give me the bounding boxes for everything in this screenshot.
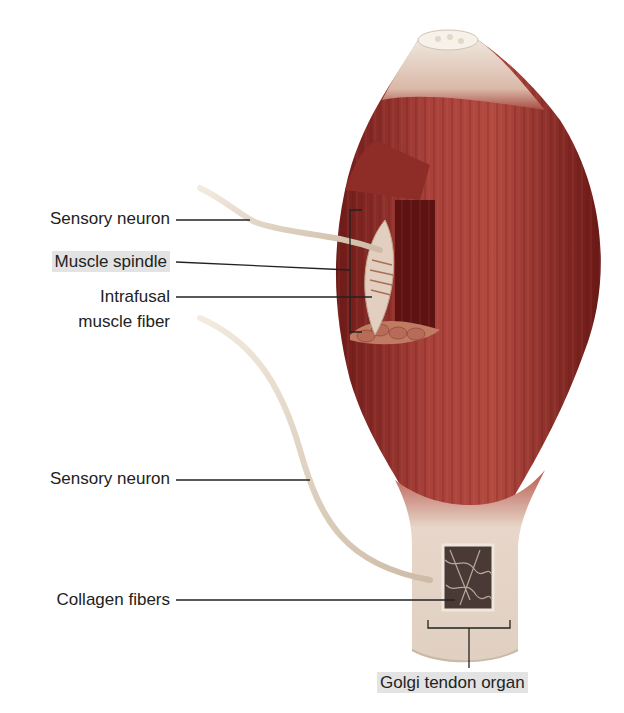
label-muscle-spindle: Muscle spindle <box>28 252 170 272</box>
label-intrafusal-line2: muscle fiber <box>20 312 170 332</box>
label-golgi-tendon-organ-text: Golgi tendon organ <box>377 672 528 693</box>
label-intrafusal-line1: Intrafusal <box>20 287 170 307</box>
label-collagen-fibers: Collagen fibers <box>20 590 170 610</box>
label-sensory-neuron-bottom: Sensory neuron <box>20 469 170 489</box>
label-sensory-neuron-top: Sensory neuron <box>20 209 170 229</box>
label-muscle-spindle-text: Muscle spindle <box>52 251 170 272</box>
label-golgi-tendon-organ: Golgi tendon organ <box>377 673 528 693</box>
